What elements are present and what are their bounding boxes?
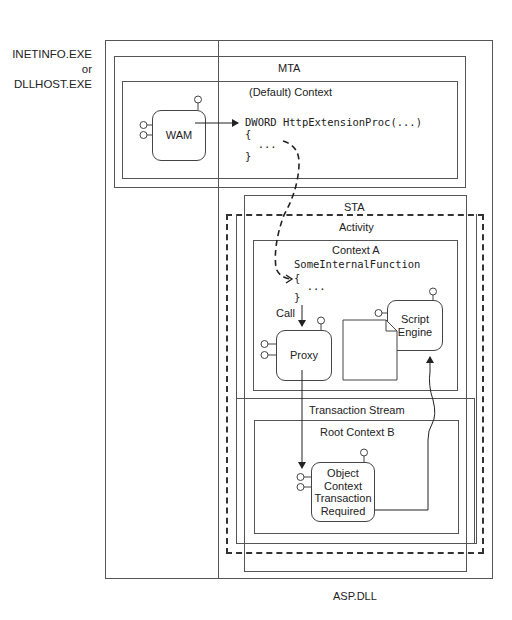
mta-label: MTA xyxy=(278,62,300,74)
object-context-label: Object Context Transaction Required xyxy=(314,467,371,517)
process-label: INETINFO.EXE or DLLHOST.EXE xyxy=(0,47,92,92)
object-context-line4: Required xyxy=(321,505,366,517)
object-context-line3: Transaction xyxy=(314,492,371,504)
asp-dll-label: ASP.DLL xyxy=(333,590,377,602)
note-line2: action= xyxy=(352,344,388,356)
wam-component: WAM xyxy=(152,110,206,161)
script-engine-line1: Script xyxy=(401,313,429,325)
note-line1: @Trans- xyxy=(349,330,392,342)
http-extension-proc-code-line3: ... xyxy=(245,138,277,150)
note-text: @Trans- action= Required xyxy=(348,329,393,371)
default-context-label: (Default) Context xyxy=(249,86,332,98)
sta-label: STA xyxy=(344,201,365,213)
activity-label: Activity xyxy=(339,221,374,233)
script-engine-label: Script Engine xyxy=(398,313,432,339)
context-a-label: Context A xyxy=(332,244,380,256)
http-extension-proc-code-line4: } xyxy=(245,150,251,162)
some-internal-function-code-line4: } xyxy=(294,291,300,303)
process-label-line2: DLLHOST.EXE xyxy=(0,77,92,92)
root-context-b-label: Root Context B xyxy=(320,426,395,438)
http-extension-proc-code-line1: DWORD HttpExtensionProc(...) xyxy=(245,116,422,128)
proxy-label: Proxy xyxy=(290,349,318,362)
object-context-line1: Object xyxy=(327,467,359,479)
transaction-required-note: @Trans- action= Required xyxy=(343,320,397,380)
call-label: Call xyxy=(276,307,295,319)
script-engine-line2: Engine xyxy=(398,326,432,338)
object-context-line2: Context xyxy=(324,480,362,492)
object-context-component: Object Context Transaction Required xyxy=(311,462,375,522)
some-internal-function-code-line1: SomeInternalFunction xyxy=(294,258,420,270)
process-label-line1: INETINFO.EXE or xyxy=(0,47,92,77)
wam-label: WAM xyxy=(166,129,192,142)
transaction-stream-label: Transaction Stream xyxy=(309,404,405,416)
note-line3: Required xyxy=(348,358,393,370)
proxy-component: Proxy xyxy=(276,330,332,381)
